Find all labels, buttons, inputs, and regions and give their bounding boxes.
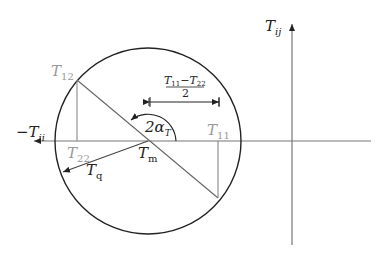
label-t12: T12	[51, 62, 74, 82]
mohr-circle-diagram: Tij −Tii T12 T22 T11 Tm Tq 2αT T11−T22 2	[0, 0, 381, 254]
label-half-diff-numerator: T11−T22	[164, 74, 206, 88]
label-tii: −Tii	[16, 123, 45, 143]
label-tm: Tm	[138, 144, 158, 164]
label-t11: T11	[207, 121, 230, 141]
label-half-diff-denominator: 2	[182, 87, 189, 100]
label-tq: Tq	[86, 161, 103, 181]
label-tij: Tij	[265, 17, 281, 37]
label-angle: 2αT	[144, 118, 172, 138]
